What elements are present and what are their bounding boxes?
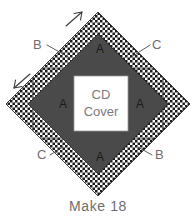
- piece-letter-a-right: A: [136, 98, 144, 110]
- diagram-caption: Make 18: [0, 198, 196, 214]
- piece-letter-a-left: A: [59, 98, 67, 110]
- callout-label-b-topleft: B: [33, 38, 42, 51]
- callout-label-c-topright: C: [152, 38, 162, 51]
- center-label-line-2: Cover: [84, 105, 119, 120]
- center-square-label: CD Cover: [74, 76, 128, 131]
- grain-arrow-northeast: [66, 12, 82, 26]
- piece-letter-a-top: A: [96, 43, 104, 55]
- piece-letter-a-bottom: A: [96, 151, 104, 163]
- center-label-line-1: CD: [92, 88, 111, 103]
- callout-label-c-bottomleft: C: [37, 148, 47, 161]
- quilt-block-diagram: B C C B A A A A CD Cover Make 18: [0, 0, 196, 222]
- callout-label-b-bottomright: B: [155, 148, 164, 161]
